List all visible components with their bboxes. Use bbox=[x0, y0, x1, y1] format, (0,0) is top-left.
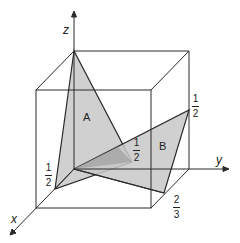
x-axis-label: x bbox=[11, 213, 17, 225]
z-arrow-icon bbox=[72, 11, 77, 17]
unit-cube-diagram bbox=[0, 0, 240, 243]
axes bbox=[10, 11, 229, 235]
z-axis-label: z bbox=[63, 24, 69, 36]
plane-b-label: B bbox=[159, 141, 166, 152]
intercept-a-x: 1 2 bbox=[45, 163, 52, 188]
y-arrow-icon bbox=[223, 167, 229, 172]
intercept-b-x: 2 3 bbox=[173, 195, 180, 220]
intercept-a-y: 1 2 bbox=[133, 138, 140, 163]
plane-a-label: A bbox=[83, 112, 90, 123]
x-axis bbox=[12, 169, 74, 233]
intercept-b-z: 1 2 bbox=[192, 94, 199, 119]
y-axis-label: y bbox=[216, 154, 222, 166]
